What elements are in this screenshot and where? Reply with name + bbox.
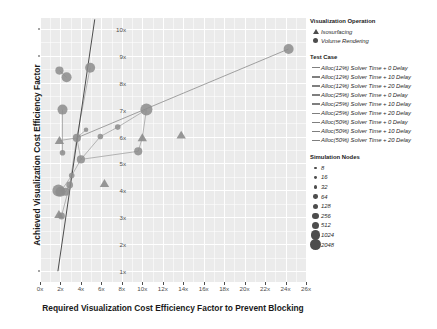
legend-key-triangle (310, 27, 321, 36)
x-axis-tick-mark (265, 282, 266, 285)
gridline-horizontal-minor (40, 150, 306, 151)
legend-label-simulation-nodes: 32 (321, 184, 327, 190)
legend-item-test-case[interactable]: Alloc(25%) Solver Time + 0 Delay (310, 90, 437, 99)
line-swatch-icon (312, 113, 320, 114)
legend-item-test-case[interactable]: Alloc(50%) Solver Time + 10 Delay (310, 127, 437, 136)
legend-group-operation: Visualization Operation IsosurfacingVolu… (310, 18, 437, 45)
y-axis-tick-mark (38, 28, 41, 29)
line-swatch-icon (312, 94, 320, 95)
legend-item-operation[interactable]: Isosurfacing (310, 27, 437, 36)
legend-item-test-case[interactable]: Alloc(12%) Solver Time + 20 Delay (310, 81, 437, 90)
y-axis-tick-label: 2x (119, 241, 126, 248)
legend-label-test-case: Alloc(50%) Solver Time + 0 Delay (321, 119, 408, 125)
legend-item-test-case[interactable]: Alloc(12%) Solver Time + 0 Delay (310, 63, 437, 72)
x-axis-tick-mark (122, 282, 123, 285)
legend-item-operation[interactable]: Volume Rendering (310, 36, 437, 45)
legend-key-line-swatch (310, 91, 321, 100)
legend-key-size-dot (310, 202, 321, 211)
legend-label-test-case: Alloc(12%) Solver Time + 20 Delay (321, 83, 411, 89)
legend-key-size-dot (310, 163, 321, 172)
x-axis-tick-label: 4x (78, 285, 85, 292)
legend-item-test-case[interactable]: Alloc(12%) Solver Time + 10 Delay (310, 72, 437, 81)
legend-item-simulation-nodes[interactable]: 256 (310, 211, 437, 221)
legend-item-simulation-nodes[interactable]: 16 (310, 173, 437, 183)
legend-label-test-case: Alloc(50%) Solver Time + 20 Delay (321, 137, 411, 143)
legend-key-size-dot (310, 221, 321, 230)
legend-item-test-case[interactable]: Alloc(50%) Solver Time + 20 Delay (310, 136, 437, 145)
legend-title-simulation-nodes: Simulation Nodes (310, 154, 437, 160)
legend-item-simulation-nodes[interactable]: 8 (310, 163, 437, 173)
gridline-horizontal-minor (40, 231, 306, 232)
legend-item-simulation-nodes[interactable]: 32 (310, 182, 437, 192)
x-axis-tick-mark (224, 282, 225, 285)
legend-key-line-swatch (310, 136, 321, 145)
y-axis-tick-label: 9x (119, 52, 126, 59)
x-axis-tick-mark (245, 282, 246, 285)
legend-label-simulation-nodes: 128 (321, 203, 331, 209)
gridline-horizontal-minor (40, 42, 306, 43)
gridline-horizontal-minor (40, 177, 306, 178)
gridline-horizontal-minor (40, 96, 306, 97)
legend-label-test-case: Alloc(25%) Solver Time + 20 Delay (321, 110, 411, 116)
gridline-horizontal (40, 110, 306, 111)
y-axis-tick-label: 4x (119, 187, 126, 194)
x-axis-tick-label: 22x (260, 285, 270, 292)
line-swatch-icon (312, 85, 320, 86)
circle-icon (313, 204, 318, 209)
legend-label-test-case: Alloc(12%) Solver Time + 10 Delay (321, 74, 411, 80)
x-axis-tick-label: 2x (57, 285, 64, 292)
legend-label-operation: Isosurfacing (321, 29, 352, 35)
legend-label-test-case: Alloc(25%) Solver Time + 0 Delay (321, 92, 408, 98)
legend-item-test-case[interactable]: Alloc(25%) Solver Time + 10 Delay (310, 100, 437, 109)
legend-label-simulation-nodes: 2048 (321, 242, 334, 248)
x-axis-tick-label: 0x (37, 285, 44, 292)
legend-label-simulation-nodes: 64 (321, 194, 327, 200)
legend-item-simulation-nodes[interactable]: 128 (310, 201, 437, 211)
legend-key-size-dot (310, 173, 321, 182)
y-axis-tick-mark (38, 82, 41, 83)
x-axis-tick-label: 20x (240, 285, 250, 292)
y-axis-tick-mark (38, 271, 41, 272)
gridline-horizontal (40, 217, 306, 218)
legend-label-simulation-nodes: 512 (321, 222, 331, 228)
x-axis-tick-mark (60, 282, 61, 285)
legend-key-line-swatch (310, 72, 321, 81)
gridline-horizontal (40, 137, 306, 138)
x-axis-tick-label: 12x (158, 285, 168, 292)
legend-key-line-swatch (310, 118, 321, 127)
y-axis-tick-mark (38, 163, 41, 164)
y-axis-tick-mark (38, 55, 41, 56)
chart-legend: Visualization Operation IsosurfacingVolu… (310, 18, 437, 282)
legend-key-line-swatch (310, 127, 321, 136)
legend-key-line-swatch (310, 100, 321, 109)
circle-icon (313, 194, 317, 198)
circle-icon (314, 167, 316, 169)
y-axis-tick-label: 7x (119, 106, 126, 113)
legend-key-line-swatch (310, 81, 321, 90)
legend-item-simulation-nodes[interactable]: 64 (310, 192, 437, 202)
legend-item-simulation-nodes[interactable]: 1024 (310, 230, 437, 240)
gridline-horizontal-minor (40, 204, 306, 205)
y-axis-tick-label: 1x (119, 268, 126, 275)
gridline-vertical (306, 18, 307, 282)
legend-group-test-case: Test Case Alloc(12%) Solver Time + 0 Del… (310, 54, 437, 145)
y-axis-tick-label: 8x (119, 79, 126, 86)
legend-key-size-dot (310, 240, 321, 249)
gridline-horizontal-minor (40, 258, 306, 259)
circle-icon (314, 176, 317, 179)
x-axis-tick-label: 14x (178, 285, 188, 292)
legend-label-test-case: Alloc(12%) Solver Time + 0 Delay (321, 65, 408, 71)
x-axis-tick-mark (40, 282, 41, 285)
legend-item-test-case[interactable]: Alloc(25%) Solver Time + 20 Delay (310, 109, 437, 118)
legend-label-simulation-nodes: 1024 (321, 232, 334, 238)
y-axis-tick-mark (38, 136, 41, 137)
legend-item-test-case[interactable]: Alloc(50%) Solver Time + 0 Delay (310, 118, 437, 127)
x-axis-tick-mark (163, 282, 164, 285)
x-axis-tick-mark (204, 282, 205, 285)
legend-key-size-dot (310, 192, 321, 201)
y-axis-tick-mark (38, 190, 41, 191)
legend-item-simulation-nodes[interactable]: 2048 (310, 240, 437, 250)
legend-item-simulation-nodes[interactable]: 512 (310, 221, 437, 231)
legend-label-simulation-nodes: 256 (321, 213, 331, 219)
legend-title-operation: Visualization Operation (310, 18, 437, 24)
